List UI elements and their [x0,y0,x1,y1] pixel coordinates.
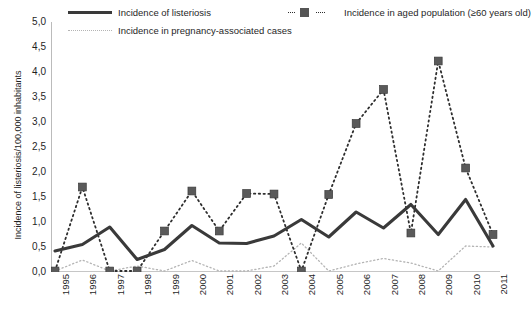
x-axis-tick-label: 2010 [471,274,482,314]
x-axis-tick-label: 2003 [279,274,290,314]
series-marker-1 [188,187,196,195]
plot-area [51,22,502,272]
legend-item-incidence-of-listeriosis: Incidence of listeriosis [68,7,211,18]
legend-label-incidence-of-listeriosis: Incidence of listeriosis [118,7,211,18]
series-marker-1 [462,164,470,172]
chart-svg [51,22,502,272]
series-marker-1 [325,191,333,199]
series-marker-1 [489,231,497,239]
y-axis-tick-label: 0,0 [20,267,46,277]
legend-label-aged-population: Incidence in aged population (≥60 years … [344,7,531,18]
y-axis-tick-label: 4,5 [20,42,46,52]
series-marker-1 [78,183,86,191]
series-marker-1 [434,57,442,65]
series-marker-1 [106,267,114,272]
y-axis-tick-label: 0,5 [20,242,46,252]
series-marker-1 [51,267,59,272]
y-axis-tick-label: 2,0 [20,167,46,177]
x-axis-tick-label: 2004 [306,274,317,314]
x-axis-tick-label: 1995 [60,274,71,314]
series-marker-1 [352,120,360,128]
x-axis-tick-label: 2011 [498,274,509,314]
x-axis-tick-label: 2005 [334,274,345,314]
x-axis-tick-label: 1999 [170,274,181,314]
y-axis-tick-label: 2,5 [20,142,46,152]
y-axis-tick-labels: 5,04,54,03,53,02,52,01,51,00,50,0 [18,17,46,277]
x-axis-tick-label: 2009 [443,274,454,314]
y-axis-tick-label: 3,5 [20,92,46,102]
y-axis-tick-label: 5,0 [20,17,46,27]
series-marker-1 [133,267,141,272]
series-marker-1 [380,86,388,94]
series-marker-1 [161,227,169,235]
x-axis-tick-labels: 1995199619971998199920002001200220032004… [51,274,502,319]
x-axis-tick-label: 1998 [142,274,153,314]
series-line-2 [55,243,493,271]
x-axis-tick-label: 2007 [389,274,400,314]
y-axis-tick-label: 4,0 [20,67,46,77]
legend-item-aged-population: Incidence in aged population (≥60 years … [288,7,531,18]
y-axis-tick-label: 3,0 [20,117,46,127]
series-line-0 [55,200,493,260]
series-marker-1 [243,190,251,198]
y-axis-tick-label: 1,0 [20,217,46,227]
series-marker-1 [270,190,278,198]
series-marker-1 [297,267,305,272]
series-marker-1 [215,227,223,235]
x-axis-tick-label: 1997 [115,274,126,314]
solid-line-swatch-icon [68,11,112,14]
x-axis-tick-label: 2002 [252,274,263,314]
y-axis-tick-label: 1,5 [20,192,46,202]
x-axis-tick-label: 2006 [361,274,372,314]
x-axis-tick-label: 2000 [197,274,208,314]
x-axis-tick-label: 2008 [416,274,427,314]
series-marker-1 [407,229,415,237]
x-axis-tick-label: 2001 [224,274,235,314]
dashed-square-marker-swatch-icon [288,8,338,17]
x-axis-tick-label: 1996 [87,274,98,314]
